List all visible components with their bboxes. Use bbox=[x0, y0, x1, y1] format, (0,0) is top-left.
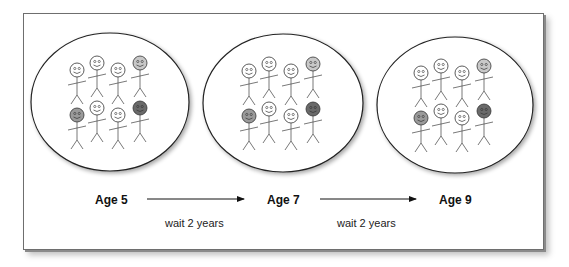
age-label-1: Age 5 bbox=[95, 193, 128, 207]
face-head-icon bbox=[455, 66, 469, 80]
face-head-icon bbox=[242, 64, 256, 78]
group-3 bbox=[377, 37, 533, 173]
cohort-diagram: Age 5 Age 7 Age 9 wait 2 years wait 2 ye… bbox=[0, 0, 569, 267]
face-head-icon bbox=[111, 108, 125, 122]
face-head-icon bbox=[70, 108, 84, 122]
face-head-icon bbox=[262, 57, 276, 71]
group-circle bbox=[31, 33, 189, 171]
face-head-icon bbox=[70, 63, 84, 77]
face-head-icon bbox=[262, 102, 276, 116]
wait-label-1: wait 2 years bbox=[164, 217, 224, 229]
face-head-icon bbox=[455, 111, 469, 125]
face-head-icon bbox=[90, 56, 104, 70]
face-head-icon bbox=[477, 59, 491, 73]
face-head-icon bbox=[414, 111, 428, 125]
face-head-icon bbox=[306, 57, 320, 71]
face-head-icon bbox=[133, 56, 147, 70]
face-head-icon bbox=[434, 59, 448, 73]
face-head-icon bbox=[284, 64, 298, 78]
face-head-icon bbox=[306, 102, 320, 116]
face-head-icon bbox=[414, 66, 428, 80]
face-head-icon bbox=[242, 109, 256, 123]
face-head-icon bbox=[477, 104, 491, 118]
face-head-icon bbox=[133, 101, 147, 115]
group-1 bbox=[31, 33, 189, 171]
face-head-icon bbox=[434, 104, 448, 118]
face-head-icon bbox=[111, 63, 125, 77]
age-label-3: Age 9 bbox=[439, 193, 472, 207]
wait-label-2: wait 2 years bbox=[336, 217, 396, 229]
group-circle bbox=[203, 34, 363, 172]
face-head-icon bbox=[90, 101, 104, 115]
group-2 bbox=[203, 34, 363, 172]
age-label-2: Age 7 bbox=[267, 193, 300, 207]
group-circle bbox=[377, 37, 533, 173]
face-head-icon bbox=[284, 109, 298, 123]
